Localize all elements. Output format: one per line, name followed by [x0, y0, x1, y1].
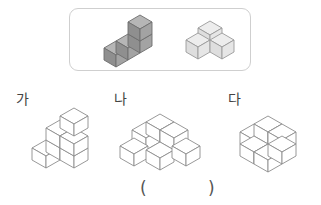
option-label-na: 나 [114, 92, 127, 106]
option-label-ga: 가 [16, 92, 29, 106]
dark-L-shape [102, 16, 178, 72]
answer-close-paren: ) [208, 180, 215, 197]
worksheet-canvas: 가 [0, 0, 321, 205]
option-label-da: 다 [228, 92, 241, 106]
option-na-figure [122, 108, 212, 174]
option-ga-figure [30, 100, 110, 172]
option-da-figure [236, 110, 316, 172]
light-tripod-shape [182, 20, 242, 70]
answer-open-paren: ( [140, 180, 147, 197]
